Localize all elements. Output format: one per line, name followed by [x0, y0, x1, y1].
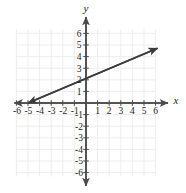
- y-tick-label: 2: [77, 75, 82, 85]
- x-tick-label: -5: [24, 106, 32, 116]
- y-tick-label: 1: [77, 87, 82, 97]
- y-tick-label: -2: [75, 122, 83, 132]
- x-tick-label: 5: [142, 106, 147, 116]
- x-tick-label: -2: [59, 106, 67, 116]
- y-tick-label: 6: [77, 29, 82, 39]
- y-tick-label: -5: [75, 156, 83, 166]
- y-tick-label: -3: [75, 133, 83, 143]
- y-tick-label: -4: [75, 145, 83, 155]
- y-tick-label: -1: [75, 110, 83, 120]
- graph-svg: -6 -5 -4 -3 -2 -1 1 2 3 4 5 6 6 5 4 3 2 …: [0, 0, 186, 193]
- x-tick-label: -6: [13, 106, 21, 116]
- x-tick-label: 4: [130, 106, 135, 116]
- x-tick-label: 2: [107, 106, 112, 116]
- x-tick-label: 6: [153, 106, 158, 116]
- y-tick-label: 3: [77, 64, 82, 74]
- x-tick-label: 3: [118, 106, 123, 116]
- y-tick-label: 5: [77, 40, 82, 50]
- x-tick-label: -3: [48, 106, 56, 116]
- x-tick-label: 1: [95, 106, 100, 116]
- coordinate-plane-graph: -6 -5 -4 -3 -2 -1 1 2 3 4 5 6 6 5 4 3 2 …: [0, 0, 186, 193]
- y-tick-label: 4: [77, 52, 82, 62]
- x-axis-label: x: [173, 94, 179, 106]
- y-tick-label: -6: [75, 168, 83, 178]
- y-axis-label: y: [83, 2, 89, 14]
- x-tick-label: -4: [36, 106, 44, 116]
